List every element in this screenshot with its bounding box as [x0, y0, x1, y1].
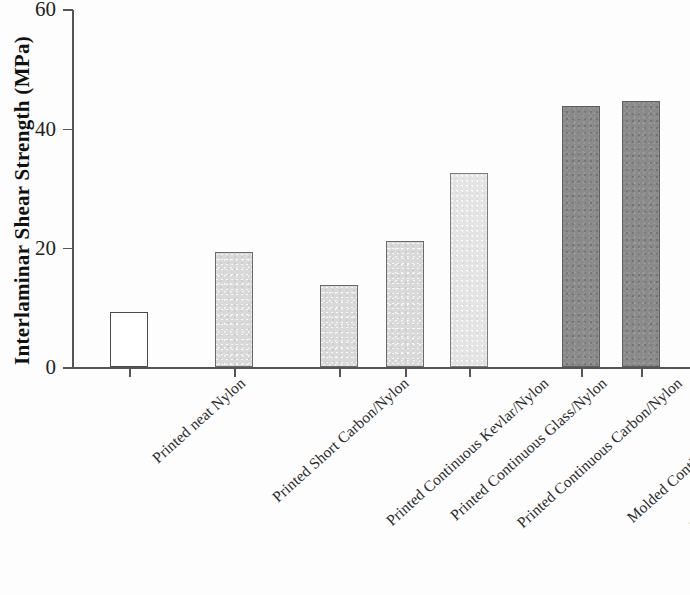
y-tick-label-20: 20 [35, 236, 56, 261]
x-tick-5 [469, 368, 471, 377]
x-axis-label-text: Printed Short Carbon/Nylon [269, 374, 413, 506]
x-tick-3 [339, 368, 341, 377]
x-tick-6 [581, 368, 583, 377]
bar-chart-figure: Interlaminar Shear Strength (MPa) 020406… [0, 0, 690, 595]
x-tick-1 [129, 368, 131, 377]
x-axis-label-2: Printed Short Carbon/Nylon [269, 374, 413, 506]
bar-3 [320, 285, 358, 367]
bar-5 [450, 173, 488, 367]
x-tick-4 [405, 368, 407, 377]
bar-6 [562, 106, 600, 367]
bar-2 [215, 252, 253, 367]
y-tick-60: 60 [63, 9, 73, 11]
y-axis-title: Interlaminar Shear Strength (MPa) [10, 11, 35, 391]
bar-7 [622, 101, 660, 367]
plot-area: 0204060 [72, 10, 690, 368]
x-axis-label-text: Printed neat Nylon [149, 374, 249, 467]
bar-1 [110, 312, 148, 367]
y-tick-label-0: 0 [46, 355, 57, 380]
y-tick-0: 0 [63, 367, 73, 369]
x-axis-label-1: Printed neat Nylon [149, 374, 249, 467]
x-tick-7 [641, 368, 643, 377]
y-axis-line [72, 10, 74, 368]
y-tick-20: 20 [63, 248, 73, 250]
y-tick-40: 40 [63, 129, 73, 131]
y-tick-label-60: 60 [35, 0, 56, 22]
bar-4 [386, 241, 424, 367]
x-axis-line [72, 367, 690, 369]
y-tick-label-40: 40 [35, 117, 56, 142]
